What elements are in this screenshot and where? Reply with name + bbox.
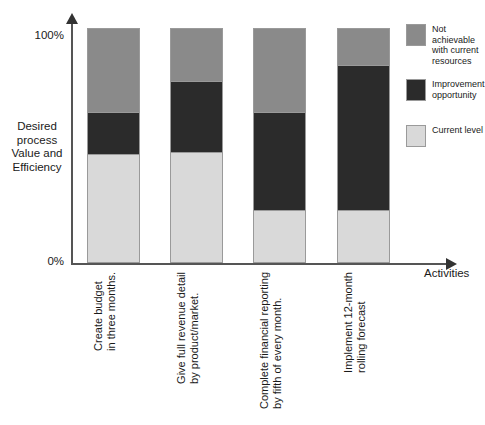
legend-label-2: Improvementopportunity [432, 79, 485, 100]
legend-swatch-3 [406, 125, 426, 147]
x-axis-category-label-2: Give full revenue detailby product/marke… [175, 272, 201, 384]
legend-swatch-1 [406, 24, 426, 46]
legend-label-3: Current level [432, 125, 483, 136]
legend-label-1-line-1: Not achievable [432, 24, 485, 45]
legend-label-2-line-1: Improvement [432, 79, 485, 90]
legend-label-1: Not achievablewith currentresources [432, 24, 485, 66]
x-axis-category-label-4: Implement 12-monthrolling forecast [342, 272, 368, 373]
legend-label-2-line-2: opportunity [432, 90, 485, 101]
x-axis-category-label-1-line-2: in three months. [105, 272, 118, 351]
legend-item-2[interactable]: Improvementopportunity [406, 79, 485, 101]
bar-segment-not-achievable-with-current-resources [253, 28, 306, 113]
x-axis-category-label-3-line-1: Complete financial reporting [258, 272, 271, 409]
bar-segment-improvement-opportunity [253, 113, 306, 212]
x-axis-category-label-3-line-2: by fifth of every month. [271, 272, 284, 409]
legend-swatch-2 [406, 79, 426, 101]
bar-segment-current-level [337, 211, 390, 263]
x-axis-category-label-1-line-1: Create budget [92, 272, 105, 351]
bar-segment-not-achievable-with-current-resources [337, 28, 390, 66]
legend-item-3[interactable]: Current level [406, 125, 483, 147]
bar-segment-current-level [253, 211, 306, 263]
x-axis-category-label-2-line-1: Give full revenue detail [175, 272, 188, 384]
bar-3 [253, 28, 306, 263]
bar-segment-improvement-opportunity [337, 66, 390, 212]
stacked-bar-chart: 100% 0% DesiredprocessValue andEfficienc… [0, 0, 485, 425]
bar-1 [87, 28, 140, 263]
bar-segment-current-level [170, 153, 223, 263]
legend-label-1-line-2: with current [432, 45, 485, 56]
bar-2 [170, 28, 223, 263]
x-axis-category-label-1: Create budgetin three months. [92, 272, 118, 351]
x-axis-category-label-4-line-1: Implement 12-month [342, 272, 355, 373]
bar-segment-improvement-opportunity [170, 82, 223, 153]
x-axis-category-label-4-line-2: rolling forecast [355, 272, 368, 373]
bar-4 [337, 28, 390, 263]
legend-label-1-line-3: resources [432, 56, 485, 67]
bar-segment-improvement-opportunity [87, 113, 140, 155]
legend-item-1[interactable]: Not achievablewith currentresources [406, 24, 485, 66]
x-axis-category-label-2-line-2: by product/market. [188, 272, 201, 384]
x-axis-category-label-3: Complete financial reportingby fifth of … [258, 272, 284, 409]
bar-segment-not-achievable-with-current-resources [170, 28, 223, 82]
bar-segment-current-level [87, 155, 140, 263]
bar-segment-not-achievable-with-current-resources [87, 28, 140, 113]
legend-label-3-line-1: Current level [432, 125, 483, 136]
